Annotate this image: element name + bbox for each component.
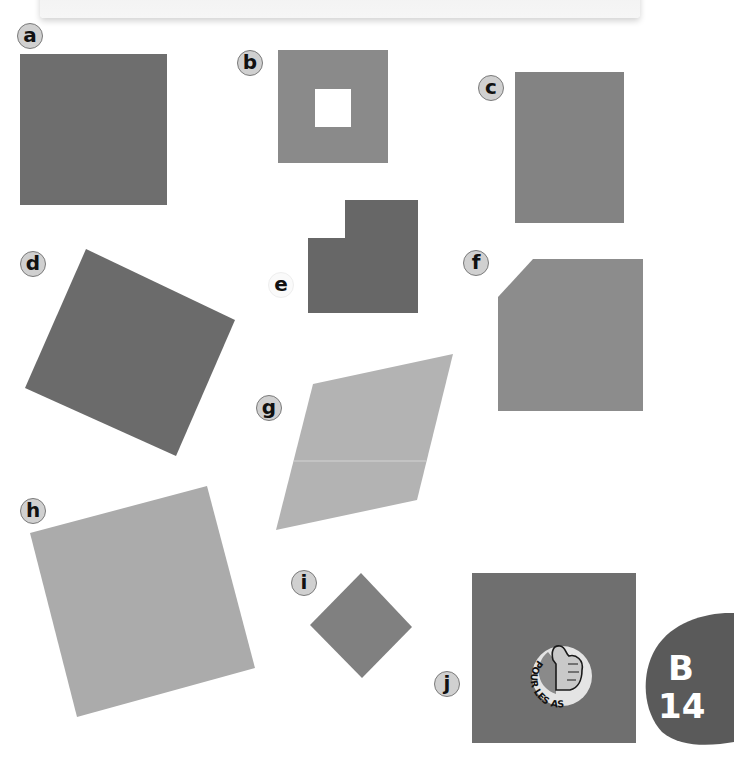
figure-d[interactable]	[25, 249, 235, 456]
page-section-letter: B	[668, 651, 694, 685]
figure-a[interactable]	[20, 54, 167, 205]
figure-b[interactable]	[278, 50, 388, 163]
figure-f[interactable]	[498, 259, 643, 411]
label-f: f	[463, 250, 489, 276]
shapes-canvas: POUR LES AS	[0, 0, 734, 779]
figure-c[interactable]	[515, 72, 624, 223]
label-d: d	[20, 251, 46, 277]
figure-g[interactable]	[276, 354, 453, 530]
page-number: 14	[658, 689, 705, 723]
label-h: h	[20, 498, 46, 524]
label-a: a	[17, 23, 43, 49]
figure-h[interactable]	[30, 486, 255, 717]
label-g: g	[256, 395, 282, 421]
label-e: e	[268, 272, 294, 298]
label-j: j	[434, 671, 460, 697]
label-i: i	[291, 570, 317, 596]
figure-i[interactable]	[310, 573, 412, 678]
label-b: b	[237, 50, 263, 76]
figure-e[interactable]	[308, 200, 418, 313]
label-c: c	[478, 75, 504, 101]
